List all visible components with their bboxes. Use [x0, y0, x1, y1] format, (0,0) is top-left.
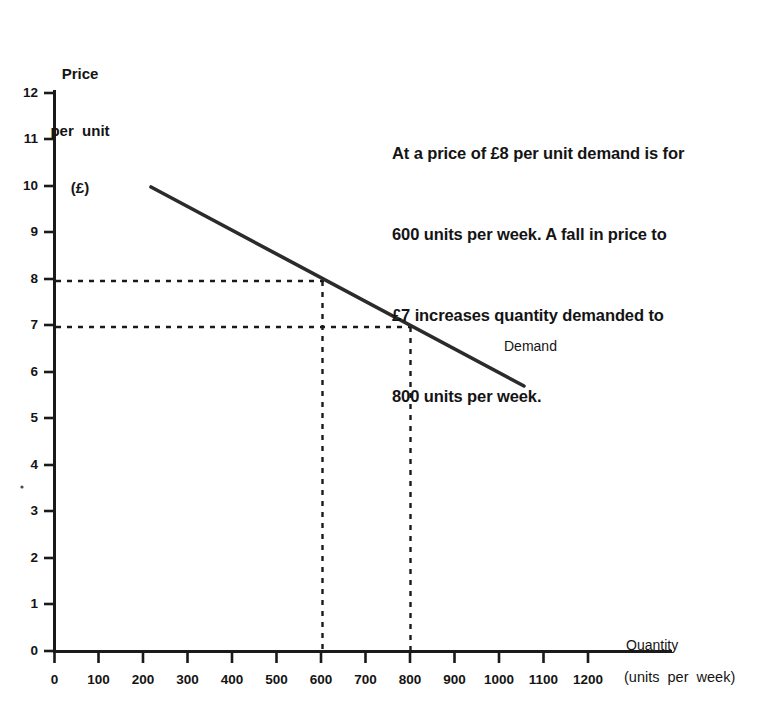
y-tick-label-10: 10 [12, 178, 38, 193]
x-tick-label-1200: 1200 [565, 672, 611, 687]
y-axis-title: Price per unit (£) [28, 26, 132, 235]
x-tick-label-200: 200 [120, 672, 166, 687]
x-tick-label-500: 500 [254, 672, 300, 687]
y-tick-label-7: 7 [12, 317, 38, 332]
y-axis-title-line3: (£) [28, 178, 132, 197]
x-axis-title: Quantity [626, 637, 678, 653]
y-axis-title-line2: per unit [28, 121, 132, 140]
y-tick-label-11: 11 [12, 131, 38, 146]
demand-series-label: Demand [504, 338, 557, 354]
x-tick-label-700: 700 [343, 672, 389, 687]
y-tick-label-9: 9 [12, 224, 38, 239]
x-tick-label-600: 600 [298, 672, 344, 687]
annotation-line-4: 800 units per week. [392, 383, 744, 410]
y-tick-label-3: 3 [12, 503, 38, 518]
y-tick-label-0: 0 [12, 643, 38, 658]
scan-speck [20, 485, 23, 488]
x-tick-label-900: 900 [432, 672, 478, 687]
annotation-text: At a price of £8 per unit demand is for … [392, 86, 744, 464]
x-tick-label-0: 0 [32, 672, 78, 687]
x-tick-label-100: 100 [76, 672, 122, 687]
x-tick-label-800: 800 [387, 672, 433, 687]
demand-curve-figure: Price per unit (£) At a price of £8 per … [0, 0, 770, 717]
y-axis-title-line1: Price [28, 64, 132, 83]
x-tick-label-1000: 1000 [476, 672, 522, 687]
y-tick-label-12: 12 [12, 85, 38, 100]
y-tick-label-8: 8 [12, 271, 38, 286]
annotation-line-2: 600 units per week. A fall in price to [392, 221, 744, 248]
y-tick-label-6: 6 [12, 364, 38, 379]
x-axis-units-label: (units per week) [624, 669, 735, 685]
y-tick-label-2: 2 [12, 550, 38, 565]
x-tick-label-400: 400 [209, 672, 255, 687]
y-tick-label-1: 1 [12, 596, 38, 611]
y-tick-label-4: 4 [12, 457, 38, 472]
x-tick-label-1100: 1100 [521, 672, 567, 687]
annotation-line-1: At a price of £8 per unit demand is for [392, 140, 744, 167]
annotation-line-3: £7 increases quantity demanded to [392, 302, 744, 329]
x-tick-label-300: 300 [165, 672, 211, 687]
y-tick-label-5: 5 [12, 410, 38, 425]
